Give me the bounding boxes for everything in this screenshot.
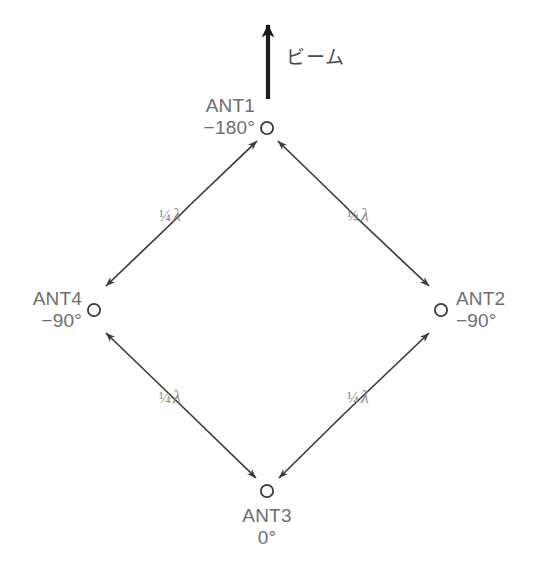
node-label-ant3: ANT3 0° [228, 505, 306, 549]
node-name-ant1: ANT1 [206, 95, 255, 116]
segment-ant4-ant3 [106, 333, 256, 478]
node-label-ant1: ANT1 −180° [199, 95, 255, 139]
segment-label-ant4-ant3: ¼λ [159, 389, 181, 406]
node-ant4[interactable] [88, 304, 100, 316]
node-phase-ant3: 0° [228, 527, 306, 549]
segment-label-ant1-ant2: ¼λ [347, 207, 369, 224]
segment-fraction-4: ¼ [347, 389, 359, 406]
node-label-ant2: ANT2 −90° [456, 288, 526, 332]
node-ant1[interactable] [261, 122, 273, 134]
node-phase-ant1: −180° [199, 117, 255, 139]
node-phase-ant4: −90° [24, 310, 82, 332]
antenna-array-svg [0, 0, 534, 565]
segment-lambda-1: λ [171, 205, 181, 225]
node-phase-ant2: −90° [456, 310, 526, 332]
node-name-ant2: ANT2 [456, 288, 505, 309]
node-name-ant4: ANT4 [33, 288, 82, 309]
segment-label-ant4-ant1: ¼λ [159, 207, 181, 224]
segment-lambda-3: λ [171, 387, 181, 407]
beam-label: ビーム [286, 46, 345, 68]
node-label-ant4: ANT4 −90° [24, 288, 82, 332]
node-ant3[interactable] [261, 485, 273, 497]
segment-fraction-3: ¼ [159, 389, 171, 406]
node-name-ant3: ANT3 [242, 505, 291, 526]
segment-lambda-4: λ [359, 387, 369, 407]
segment-fraction-2: ¼ [347, 207, 359, 224]
segment-lambda-2: λ [359, 205, 369, 225]
segment-ant4-ant1 [106, 141, 257, 286]
segment-label-ant3-ant2: ¼λ [347, 389, 369, 406]
node-ant2[interactable] [435, 304, 447, 316]
diagram-canvas: ビーム ANT1 −180° ANT2 −90° ANT3 0° ANT4 −9… [0, 0, 534, 565]
segment-fraction-1: ¼ [159, 207, 171, 224]
